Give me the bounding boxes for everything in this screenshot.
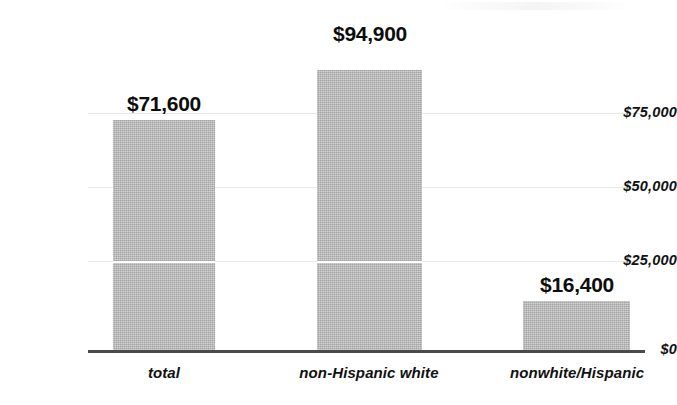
- category-label-nonwhite-hispanic: nonwhite/Hispanic: [496, 364, 658, 381]
- value-label-non-hispanic-white: $94,900: [300, 22, 440, 46]
- bar-total: [113, 120, 215, 350]
- scan-artifact: [437, 2, 637, 10]
- value-label-total: $71,600: [94, 92, 234, 116]
- category-label-total: total: [84, 364, 244, 381]
- y-tick-label-75000: $75,000: [595, 104, 677, 120]
- bar-non-hispanic-white: [317, 70, 422, 350]
- bar-nonwhite-hispanic: [523, 301, 630, 350]
- category-label-non-hispanic-white: non-Hispanic white: [289, 364, 449, 381]
- value-label-nonwhite-hispanic: $16,400: [507, 273, 647, 297]
- y-tick-label-50000: $50,000: [595, 178, 677, 194]
- y-tick-label-25000: $25,000: [595, 252, 677, 268]
- gridline-overlay-25000-bar1: [113, 261, 215, 263]
- x-axis-line: [88, 350, 645, 353]
- plot-area: $75,000 $50,000 $25,000 $0 $71,600 $94,9…: [0, 0, 677, 405]
- bar-chart: $75,000 $50,000 $25,000 $0 $71,600 $94,9…: [0, 0, 677, 405]
- gridline-overlay-25000-bar2: [317, 261, 422, 263]
